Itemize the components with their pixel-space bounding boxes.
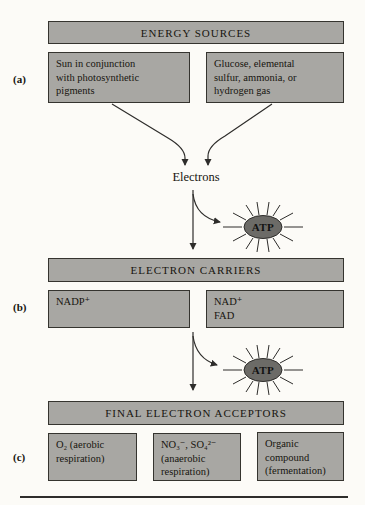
electrons-label: Electrons bbox=[156, 170, 236, 185]
atp-icon: ATP bbox=[223, 345, 303, 395]
atp-label: ATP bbox=[252, 221, 275, 233]
bottom-rule bbox=[20, 496, 348, 498]
box-sun-photosynthetic-pigments: Sun in conjunction with photosynthetic p… bbox=[48, 52, 190, 103]
box-oxygen-aerobic-respiration: O₂ (aerobic respiration) bbox=[48, 433, 137, 481]
row-label-a: (a) bbox=[13, 73, 37, 85]
atp-label: ATP bbox=[252, 364, 275, 376]
box-nitrate-sulfate-anaerobic-respiration: NO₃⁻, SO₄²⁻ (anaerobic respiration) bbox=[153, 433, 241, 481]
box-nad-fad: NAD⁺ FAD bbox=[206, 290, 344, 328]
box-nadp: NADP⁺ bbox=[48, 290, 190, 328]
arrow-branch-to-atp-1 bbox=[193, 194, 220, 222]
row-label-c: (c) bbox=[13, 451, 37, 463]
metabolism-energy-flow-diagram: ENERGY SOURCES ELECTRON CARRIERS FINAL E… bbox=[0, 0, 365, 505]
arrow-sun-to-electrons bbox=[112, 104, 185, 165]
electron-carriers-header: ELECTRON CARRIERS bbox=[48, 258, 344, 282]
energy-sources-header: ENERGY SOURCES bbox=[48, 21, 344, 44]
arrow-glucose-to-electrons bbox=[208, 104, 272, 165]
box-organic-compound-fermentation: Organic compound (fermentation) bbox=[257, 432, 344, 481]
final-electron-acceptors-header: FINAL ELECTRON ACCEPTORS bbox=[48, 401, 344, 425]
row-label-b: (b) bbox=[13, 301, 37, 313]
atp-icon: ATP bbox=[223, 202, 303, 252]
box-glucose-sulfur-ammonia-hydrogen: Glucose, elemental sulfur, ammonia, or h… bbox=[206, 52, 344, 103]
arrow-branch-to-atp-2 bbox=[193, 336, 217, 365]
